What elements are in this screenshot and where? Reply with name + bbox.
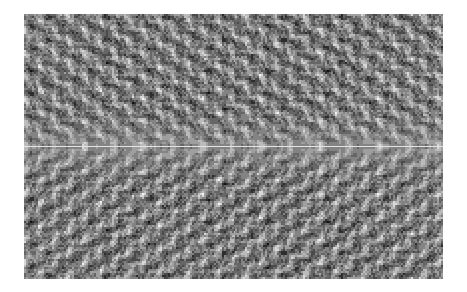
- heatmap-plot-area: [24, 14, 443, 279]
- figure-root: [0, 0, 467, 292]
- heatmap-canvas: [24, 14, 443, 279]
